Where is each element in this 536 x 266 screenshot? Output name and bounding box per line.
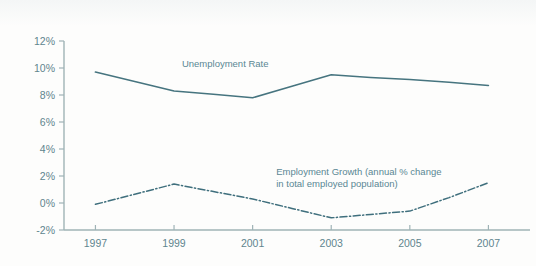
line-chart: 12%10%8%6%4%2%0%-2% 19971999200120032005… — [0, 0, 536, 266]
x-axis-tick-labels: 199719992001200320052007 — [84, 237, 501, 249]
y-axis-tick-label: 8% — [40, 89, 55, 101]
y-axis-tick-label: 10% — [34, 62, 55, 74]
y-axis-tick-label: 4% — [40, 143, 55, 155]
x-axis-tick-label: 2005 — [398, 237, 422, 249]
x-axis-tick-label: 1999 — [162, 237, 186, 249]
series-label-employment-growth-line1: Employment Growth (annual % change — [276, 166, 441, 177]
y-axis-tick-label: 12% — [34, 35, 55, 47]
chart-svg: 12%10%8%6%4%2%0%-2% 19971999200120032005… — [0, 0, 536, 266]
y-axis-tick-marks — [59, 41, 64, 230]
series-label-employment-growth-line2: in total employed population) — [276, 178, 397, 189]
series-line-unemployment-rate — [95, 72, 488, 98]
figure-page: 12%10%8%6%4%2%0%-2% 19971999200120032005… — [0, 0, 536, 266]
y-axis-tick-label: 2% — [40, 170, 55, 182]
series-label-unemployment-rate: Unemployment Rate — [182, 58, 269, 69]
y-axis-tick-label: -2% — [36, 224, 55, 236]
x-axis-tick-label: 2007 — [477, 237, 501, 249]
x-axis-tick-marks — [95, 225, 488, 230]
y-axis-tick-label: 0% — [40, 197, 55, 209]
x-axis-tick-label: 2003 — [320, 237, 344, 249]
y-axis-tick-labels: 12%10%8%6%4%2%0%-2% — [34, 35, 55, 236]
x-axis-tick-label: 2001 — [241, 237, 265, 249]
x-axis-tick-label: 1997 — [84, 237, 108, 249]
y-axis-tick-label: 6% — [40, 116, 55, 128]
